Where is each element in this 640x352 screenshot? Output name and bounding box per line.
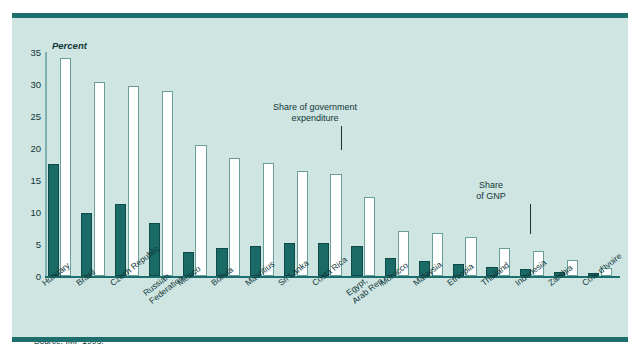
ann-expenditure-leader-line	[341, 126, 342, 150]
figure-title-strip	[0, 0, 640, 13]
bar-group	[81, 52, 115, 276]
bar-expenditure-mexico	[195, 145, 206, 276]
bar-group	[115, 52, 149, 276]
ann-expenditure-line-0: Share of government	[255, 102, 375, 113]
bar-group-container	[46, 52, 620, 276]
bar-expenditure-bolivia	[229, 158, 240, 276]
ann-expenditure-line-1: expenditure	[255, 113, 375, 124]
bar-gnp-czech-republic	[115, 204, 126, 276]
bar-group	[588, 52, 622, 276]
bar-gnp-egypt-arab-rep-	[351, 246, 362, 276]
bar-group	[149, 52, 183, 276]
bar-expenditure-czech-republic	[128, 86, 139, 276]
bar-group	[216, 52, 250, 276]
ann-gnp-leader-line	[530, 204, 531, 234]
bar-group	[419, 52, 453, 276]
bar-group	[183, 52, 217, 276]
y-tick-5: 5	[36, 239, 41, 250]
plot-area	[46, 52, 620, 276]
ann-gnp-line-0: Share	[458, 180, 524, 191]
figure-container: Percent 05101520253035 HungaryBrazilCzec…	[0, 0, 640, 352]
bar-expenditure-hungary	[60, 58, 71, 276]
bar-group	[486, 52, 520, 276]
chart-panel: Percent 05101520253035 HungaryBrazilCzec…	[12, 18, 628, 337]
y-axis-tick-labels: 05101520253035	[12, 52, 41, 277]
bar-gnp-hungary	[48, 164, 59, 276]
y-tick-35: 35	[30, 47, 41, 58]
bar-expenditure-egypt-arab-rep-	[364, 197, 375, 276]
bar-group	[351, 52, 385, 276]
bar-group	[385, 52, 419, 276]
bar-group	[453, 52, 487, 276]
y-tick-10: 10	[30, 207, 41, 218]
bar-expenditure-russian-federation	[162, 91, 173, 276]
bar-expenditure-brazil	[94, 82, 105, 276]
bar-group	[284, 52, 318, 276]
y-tick-25: 25	[30, 111, 41, 122]
x-axis-tick-labels: HungaryBrazilCzech RepublicRussian Feder…	[12, 278, 628, 338]
ann-gnp-line-1: of GNP	[458, 191, 524, 202]
bottom-rule	[12, 337, 628, 342]
bar-group	[520, 52, 554, 276]
bar-group	[318, 52, 352, 276]
ann-gnp: Shareof GNP	[458, 180, 524, 202]
y-tick-15: 15	[30, 175, 41, 186]
ann-expenditure: Share of governmentexpenditure	[255, 102, 375, 124]
bar-group	[250, 52, 284, 276]
y-tick-30: 30	[30, 79, 41, 90]
bar-group	[554, 52, 588, 276]
y-axis-label: Percent	[52, 40, 87, 51]
bar-group	[48, 52, 82, 276]
y-tick-20: 20	[30, 143, 41, 154]
